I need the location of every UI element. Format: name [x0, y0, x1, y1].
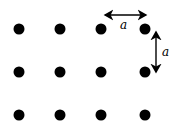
- lattice-point: [96, 110, 107, 121]
- lattice-diagram: a a: [0, 0, 172, 130]
- horizontal-spacing-label: a: [120, 18, 127, 32]
- lattice-point: [140, 67, 151, 78]
- vertical-spacing-label: a: [162, 45, 169, 59]
- lattice-point: [55, 67, 66, 78]
- lattice-point: [96, 24, 107, 35]
- lattice-point: [140, 24, 151, 35]
- lattice-point: [14, 110, 25, 121]
- lattice-point: [14, 24, 25, 35]
- lattice-point: [55, 110, 66, 121]
- lattice-point: [55, 24, 66, 35]
- lattice-point: [14, 67, 25, 78]
- lattice-points: [14, 24, 151, 121]
- lattice-point: [140, 110, 151, 121]
- lattice-point: [96, 67, 107, 78]
